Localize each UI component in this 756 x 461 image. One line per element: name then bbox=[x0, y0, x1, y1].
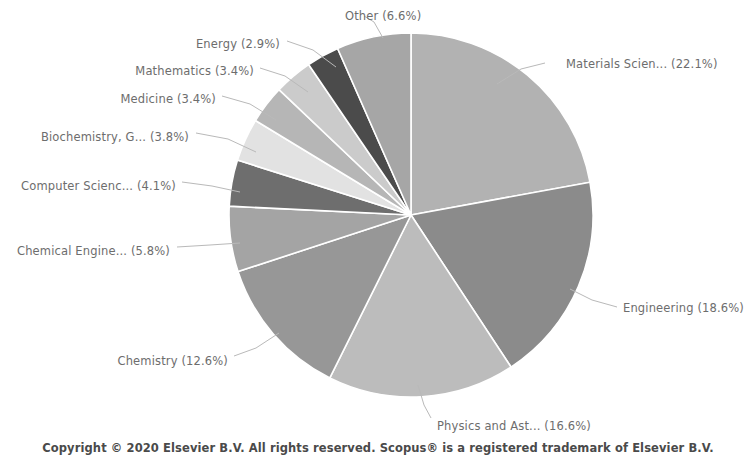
leader-line bbox=[177, 243, 240, 247]
pie-slice-label: Materials Scien... (22.1%) bbox=[566, 58, 718, 71]
pie-slice-label: Medicine (3.4%) bbox=[121, 93, 216, 106]
pie-slice-label: Chemistry (12.6%) bbox=[117, 355, 228, 368]
pie-slice-label: Physics and Ast... (16.6%) bbox=[437, 420, 591, 433]
pie-slice-group bbox=[229, 33, 593, 397]
leader-line bbox=[234, 333, 279, 356]
pie-chart-container: Materials Scien... (22.1%)Engineering (1… bbox=[0, 0, 756, 461]
copyright-footer: Copyright © 2020 Elsevier B.V. All right… bbox=[0, 441, 756, 455]
pie-slice-label: Computer Scienc... (4.1%) bbox=[21, 180, 176, 193]
pie-slice-label: Biochemistry, G... (3.8%) bbox=[41, 131, 189, 144]
pie-slice-label: Engineering (18.6%) bbox=[623, 302, 744, 315]
pie-slice-label: Energy (2.9%) bbox=[196, 38, 280, 51]
pie-slice-label: Chemical Engine... (5.8%) bbox=[17, 245, 170, 258]
leader-line bbox=[570, 289, 617, 307]
pie-slice-label: Other (6.6%) bbox=[345, 10, 421, 23]
pie-slice-label: Mathematics (3.4%) bbox=[135, 65, 254, 78]
